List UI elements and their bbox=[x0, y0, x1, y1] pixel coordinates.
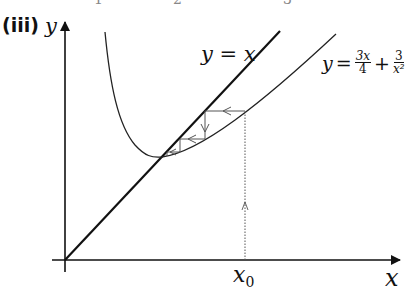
x-axis-label: x bbox=[385, 264, 399, 292]
x0-base: x bbox=[233, 262, 245, 287]
curve-equation-label: y = 3x 4 + 3 x² bbox=[322, 50, 405, 75]
equals-sign: = bbox=[336, 52, 352, 74]
x0-subscript: 0 bbox=[245, 274, 254, 290]
y-axis-label: y bbox=[45, 14, 57, 38]
fraction-term1: 3x 4 bbox=[355, 50, 371, 75]
cobweb-path bbox=[167, 107, 245, 156]
plus-sign: + bbox=[374, 52, 390, 74]
cropped-text-fragment: 1 bbox=[94, 0, 103, 7]
identity-line-label: y = x bbox=[201, 42, 256, 66]
part-label: (iii) bbox=[2, 14, 39, 36]
cropped-text-fragment: 3 bbox=[283, 0, 292, 7]
x0-label: x0 bbox=[233, 262, 254, 290]
fraction-term2: 3 x² bbox=[393, 50, 405, 75]
cropped-text-fragment: 2 bbox=[173, 0, 182, 7]
curve-lhs: y bbox=[322, 52, 333, 74]
term1-denominator: 4 bbox=[359, 63, 367, 75]
term2-denominator: x² bbox=[393, 63, 405, 75]
